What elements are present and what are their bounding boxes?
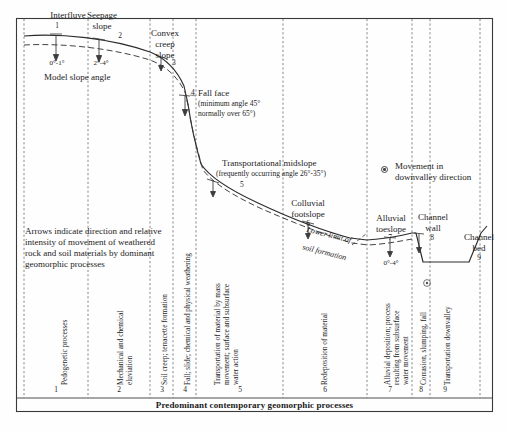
unit-9-number-top: 9 bbox=[472, 254, 486, 262]
unit-4-detail-line1: (minimum angle 45° bbox=[198, 100, 260, 108]
process-label-unit-6: Redeposition of material bbox=[320, 313, 329, 385]
unit-1-angle: 0°-1° bbox=[40, 60, 74, 68]
legend-line2: downvalley direction bbox=[395, 172, 471, 182]
legend-line1: Movement in bbox=[395, 161, 443, 171]
unit-5-name: Transportational midslope bbox=[222, 158, 316, 168]
legend-circled-dot-icon bbox=[381, 166, 388, 173]
note-line-2: intensity of movement of weathered bbox=[25, 237, 155, 247]
unit-1-number-top: 1 bbox=[48, 22, 66, 30]
process-label-unit-3: Soil creep; terracette formation bbox=[160, 294, 169, 385]
unit-7-number-bottom: 7 bbox=[383, 386, 397, 394]
model-slope-angle-label: Model slope angle bbox=[44, 72, 111, 82]
unit-3-name-line3: slope bbox=[140, 50, 190, 60]
hillslope-nine-unit-landsurface-model-figure: Interfluve 1 0°-1° Model slope angle See… bbox=[0, 0, 509, 433]
unit-7-number-top: 7 bbox=[383, 234, 397, 242]
unit-9-name-line2: bed bbox=[455, 243, 503, 253]
unit-1-number-bottom: 1 bbox=[49, 386, 63, 394]
unit-9-number-bottom: 9 bbox=[438, 386, 452, 394]
unit-7-angle: 0°-4° bbox=[374, 260, 408, 268]
unit-5-number-bottom: 5 bbox=[233, 386, 247, 394]
unit-9-name-line1: Channel bbox=[455, 232, 503, 242]
ground-surface-profile bbox=[24, 35, 416, 240]
note-line-4: geomorphic processes bbox=[25, 259, 105, 269]
channel-bed-movement-symbol-dot-icon bbox=[426, 282, 428, 284]
unit-4-name: Fall face bbox=[198, 88, 229, 98]
unit-3-name-line1: Convex bbox=[140, 28, 190, 38]
process-label-unit-4: Fall; slide; chemical and physical weath… bbox=[183, 253, 192, 385]
unit-4-number-bottom: 4 bbox=[178, 386, 192, 394]
unit-2-number-top: 2 bbox=[113, 32, 127, 40]
leader-unit-3 bbox=[166, 62, 171, 66]
unit-2-name-line1: Seepage bbox=[76, 10, 128, 20]
unit-6-number-bottom: 6 bbox=[318, 386, 332, 394]
process-label-unit-7: Alluvial deposition; processresulting fr… bbox=[383, 303, 410, 385]
unit-6-name-line2: footslope bbox=[278, 209, 338, 219]
unit-8-number-bottom: 8 bbox=[414, 386, 428, 394]
process-label-unit-8: Corrasion, slumping, fall bbox=[419, 312, 428, 385]
unit-3-name-line2: creep bbox=[140, 39, 190, 49]
process-label-unit-9: Transportation downvalley bbox=[443, 306, 452, 385]
unit-5-number-top: 5 bbox=[240, 181, 244, 189]
unit-5-detail-line1: (frequently occurring angle 26°-35°) bbox=[216, 170, 326, 178]
unit-2-angle: 2°-4° bbox=[84, 60, 118, 68]
arrow-head-unit-7 bbox=[388, 252, 393, 258]
unit-8-name-line2: wall bbox=[409, 223, 457, 233]
slope-tick-unit-4 bbox=[179, 95, 190, 96]
unit-4-number-top: 4 bbox=[191, 89, 195, 97]
unit-2-name-line2: slope bbox=[76, 21, 128, 31]
arrow-head-unit-5 bbox=[211, 192, 216, 198]
process-label-unit-2: Mechanical and chemicaleluviation bbox=[116, 310, 134, 385]
unit-3-number-bottom: 3 bbox=[155, 386, 169, 394]
unit-3-number-top: 3 bbox=[172, 59, 176, 67]
note-line-1: Arrows indicate direction and relative bbox=[25, 226, 161, 236]
process-label-unit-1: Pedogenetic processes bbox=[60, 320, 69, 385]
unit-8-name-line1: Channel bbox=[409, 212, 457, 222]
unit-4-detail-line2: normally over 65°) bbox=[198, 110, 255, 118]
unit-6-name-line1: Colluvial bbox=[278, 198, 338, 208]
arrow-head-unit-3 bbox=[159, 66, 164, 72]
note-line-3: rock and soil materials by dominant bbox=[25, 248, 154, 258]
unit-8-number-top: 8 bbox=[425, 234, 439, 242]
arrow-head-unit-4 bbox=[182, 110, 187, 117]
process-label-unit-5: Transportation of material by massmoveme… bbox=[213, 283, 240, 385]
unit-2-number-bottom: 2 bbox=[112, 386, 126, 394]
figure-caption: Predominant contemporary geomorphic proc… bbox=[17, 400, 492, 410]
